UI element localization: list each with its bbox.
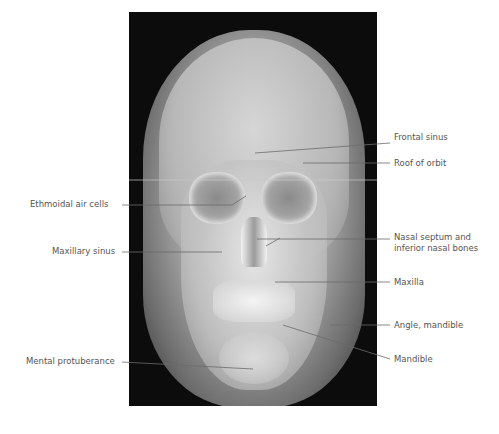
label-mental-protuberance: Mental protuberance — [26, 356, 115, 367]
nasal-cavity — [241, 217, 267, 267]
label-roof-of-orbit: Roof of orbit — [394, 158, 446, 169]
label-angle-mandible: Angle, mandible — [394, 320, 463, 331]
label-inferior-nasal-bones: inferior nasal bones — [394, 243, 478, 254]
label-maxillary-sinus: Maxillary sinus — [52, 246, 115, 257]
dentition — [213, 280, 295, 322]
label-frontal-sinus: Frontal sinus — [394, 132, 448, 143]
label-ethmoidal-air-cells: Ethmoidal air cells — [30, 199, 108, 210]
scan-artifact-band — [129, 179, 377, 181]
label-maxilla: Maxilla — [394, 277, 424, 288]
chin-region — [219, 332, 289, 384]
label-mandible: Mandible — [394, 354, 433, 365]
skull-radiograph — [129, 12, 377, 406]
label-nasal-septum: Nasal septum and — [394, 232, 471, 243]
